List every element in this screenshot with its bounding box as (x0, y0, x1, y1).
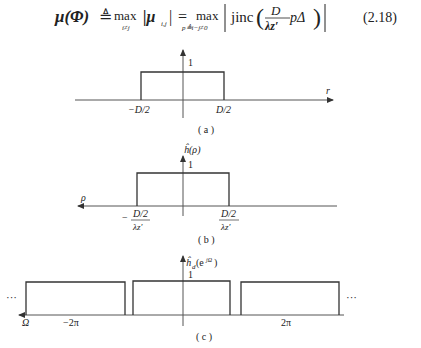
y-label-sup: jΩ (205, 257, 213, 263)
rect-period-right (241, 282, 339, 315)
tick-neg-2pi: −2π (63, 317, 79, 328)
y-tick-1: 1 (188, 269, 193, 280)
x-axis-label: Ω (22, 317, 29, 328)
tick-pos-2pi: 2π (281, 317, 291, 328)
ellipsis-right: ··· (346, 291, 357, 303)
rect-period-left (26, 282, 125, 315)
ellipsis-left: ··· (6, 291, 17, 303)
caption-c: ( c ) (196, 331, 212, 343)
rect-period-center (133, 281, 230, 315)
figure-c: ĥ d (e jΩ ) 1 ··· ··· Ω −2π 2π ( c ) (0, 0, 421, 348)
y-label-close: ) (214, 257, 217, 269)
y-label-arg: (e (196, 257, 204, 269)
